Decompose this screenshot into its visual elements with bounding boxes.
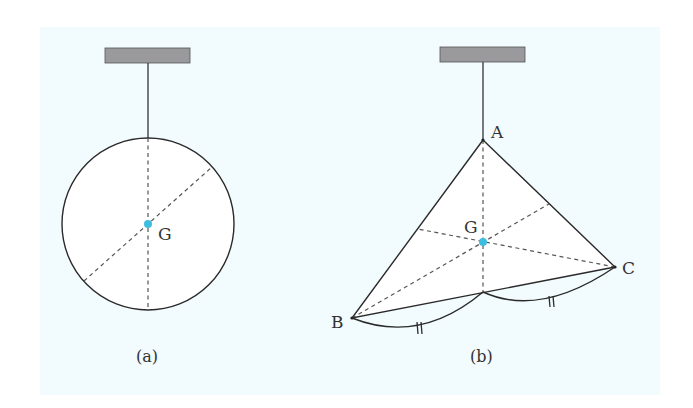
- vertex-dot-B: [350, 316, 353, 319]
- centroid-label-a: G: [158, 224, 172, 244]
- centroid-label-b: G: [464, 217, 478, 237]
- vertex-dot-C: [613, 265, 616, 268]
- centre-of-gravity-dot-b: [479, 238, 487, 246]
- suspended-bodies-centroid-diagram: G (a) A B C G (b): [0, 0, 693, 408]
- vertex-label-C: C: [622, 258, 635, 278]
- ceiling-support-a: [105, 48, 190, 63]
- vertex-label-B: B: [331, 312, 344, 332]
- caption-a: (a): [136, 347, 158, 366]
- caption-b: (b): [470, 347, 493, 366]
- vertex-label-A: A: [490, 122, 504, 142]
- centre-of-gravity-dot-a: [144, 220, 152, 228]
- ceiling-support-b: [440, 47, 525, 62]
- vertex-dot-A: [481, 138, 484, 141]
